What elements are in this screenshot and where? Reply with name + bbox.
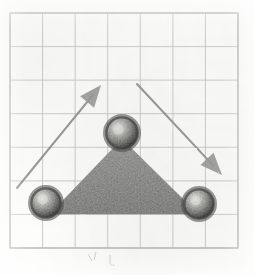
- pencil-marks-group: [88, 252, 115, 265]
- sphere-bottom-left-highlight: [38, 194, 48, 204]
- sphere-apex-highlight: [113, 124, 124, 135]
- sphere-bottom-left: [30, 187, 63, 220]
- arrow-up-right-head: [80, 85, 101, 108]
- sketch-figure: [0, 0, 254, 275]
- arrow-up-right-shaft: [17, 94, 93, 188]
- figure-container: Hand-drawn triangle with three spheres o…: [0, 0, 254, 275]
- pencil-mark-right: [110, 255, 115, 265]
- arrow-down-right: [137, 84, 222, 175]
- sphere-apex: [105, 116, 140, 151]
- sphere-bottom-right: [183, 188, 216, 221]
- arrow-up-right: [17, 85, 101, 188]
- sphere-bottom-right-highlight: [191, 195, 201, 205]
- arrow-down-right-shaft: [137, 84, 214, 166]
- pencil-mark-left: [88, 252, 96, 261]
